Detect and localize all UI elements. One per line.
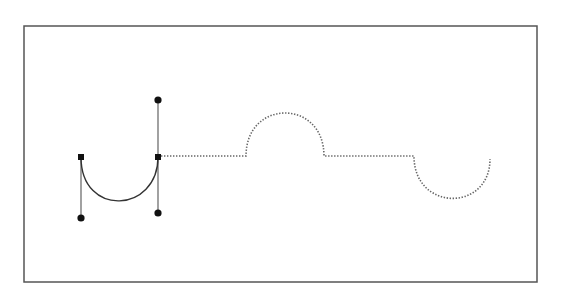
dotted-guide-path <box>161 113 490 198</box>
anchor-point-left[interactable] <box>78 154 84 160</box>
anchor-point-right[interactable] <box>155 154 161 160</box>
diagram-canvas <box>0 0 564 299</box>
frame-border <box>24 26 537 282</box>
handle-point-right-top[interactable] <box>154 96 161 103</box>
bezier-curve-segment[interactable] <box>81 157 158 201</box>
handle-point-left-bottom[interactable] <box>77 214 84 221</box>
handle-point-right-bottom[interactable] <box>154 209 161 216</box>
